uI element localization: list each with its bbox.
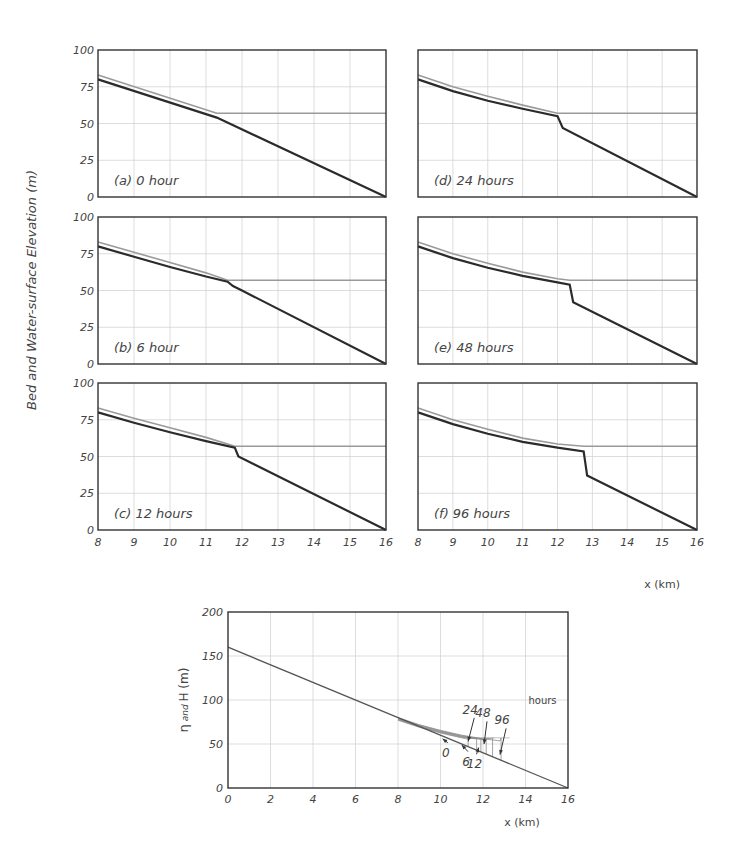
x-tick-label: 16 xyxy=(561,793,575,806)
panel-label: (c) 12 hours xyxy=(114,506,193,521)
y-tick-label: 0 xyxy=(216,782,223,795)
overview-y-axis-label: η and H (m) xyxy=(176,668,191,733)
panel-f: (f) 96 hours8910111213141516 xyxy=(415,383,705,549)
x-tick-label: 0 xyxy=(225,793,232,806)
y-tick-label: 0 xyxy=(87,524,94,537)
panel-label: (d) 24 hours xyxy=(434,173,514,188)
y-tick-label: 75 xyxy=(80,414,94,427)
panel-e: (e) 48 hours xyxy=(418,217,697,364)
x-tick-label: 8 xyxy=(395,793,402,806)
y-tick-label: 100 xyxy=(202,694,223,707)
six-panel-chart: (a) 0 hour0255075100(b) 6 hour0255075100… xyxy=(73,44,704,549)
x-tick-label: 9 xyxy=(131,536,138,549)
y-tick-label: 75 xyxy=(80,248,94,261)
x-tick-label: 12 xyxy=(235,536,249,549)
x-tick-label: 14 xyxy=(519,793,533,806)
y-tick-label: 200 xyxy=(202,606,223,619)
x-tick-label: 6 xyxy=(352,793,359,806)
figure: (a) 0 hour0255075100(b) 6 hour0255075100… xyxy=(0,0,748,860)
x-tick-label: 14 xyxy=(307,536,321,549)
panel-c: (c) 12 hours02550751008910111213141516 xyxy=(73,377,393,549)
x-tick-label: 9 xyxy=(449,536,456,549)
y-tick-label: 150 xyxy=(202,650,223,663)
y-tick-label: 50 xyxy=(80,285,94,298)
y-axis-label: Bed and Water-surface Elevation (m) xyxy=(24,170,39,410)
x-tick-label: 13 xyxy=(585,536,599,549)
x-tick-label: 16 xyxy=(690,536,704,549)
annotation-hours-12: 12 xyxy=(467,757,482,771)
y-tick-label: 100 xyxy=(73,377,94,390)
x-tick-label: 11 xyxy=(199,536,213,549)
y-tick-label: 50 xyxy=(80,451,94,464)
panel-label: (f) 96 hours xyxy=(434,506,510,521)
x-tick-label: 4 xyxy=(310,793,317,806)
x-tick-label: 13 xyxy=(271,536,285,549)
annotation-hours-48: 48 xyxy=(475,706,491,720)
overview-chart: 0612244896hours0501001502000246810121416 xyxy=(202,606,575,806)
y-tick-label: 50 xyxy=(80,118,94,131)
x-tick-label: 10 xyxy=(163,536,177,549)
eta-symbol: η xyxy=(176,724,191,732)
y-tick-label: 25 xyxy=(80,154,94,167)
x-tick-label: 8 xyxy=(415,536,422,549)
y-tick-label: 75 xyxy=(80,81,94,94)
and-word: and xyxy=(180,701,190,724)
x-tick-label: 15 xyxy=(343,536,357,549)
panel-d: (d) 24 hours xyxy=(418,50,697,197)
y-tick-label: 50 xyxy=(209,738,223,751)
y-tick-label: 100 xyxy=(73,44,94,57)
panel-a: (a) 0 hour0255075100 xyxy=(73,44,386,204)
x-tick-label: 12 xyxy=(551,536,565,549)
x-tick-label: 12 xyxy=(476,793,490,806)
panel-b: (b) 6 hour0255075100 xyxy=(73,211,386,371)
y-tick-label: 0 xyxy=(87,358,94,371)
panel-label: (b) 6 hour xyxy=(114,340,180,355)
x-axis-label: x (km) xyxy=(644,578,680,591)
x-tick-label: 2 xyxy=(267,793,274,806)
annotation-hours-0: 0 xyxy=(442,746,450,760)
hours-legend-note: hours xyxy=(528,695,556,706)
x-tick-label: 15 xyxy=(655,536,669,549)
x-tick-label: 10 xyxy=(481,536,495,549)
y-tick-label: 0 xyxy=(87,191,94,204)
x-tick-label: 14 xyxy=(620,536,634,549)
panel-label: (a) 0 hour xyxy=(114,173,180,188)
x-tick-label: 11 xyxy=(516,536,530,549)
x-tick-label: 8 xyxy=(95,536,102,549)
h-unit: H (m) xyxy=(177,668,191,702)
annotation-hours-96: 96 xyxy=(494,713,510,727)
y-tick-label: 25 xyxy=(80,321,94,334)
y-tick-label: 100 xyxy=(73,211,94,224)
y-tick-label: 25 xyxy=(80,487,94,500)
overview-x-axis-label: x (km) xyxy=(504,816,540,829)
panel-label: (e) 48 hours xyxy=(434,340,514,355)
x-tick-label: 10 xyxy=(434,793,448,806)
x-tick-label: 16 xyxy=(379,536,393,549)
